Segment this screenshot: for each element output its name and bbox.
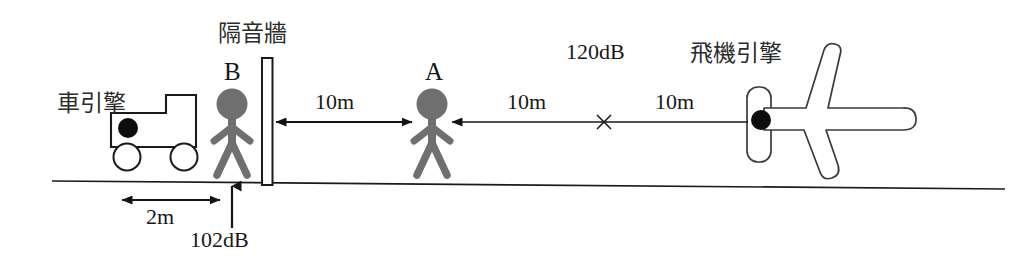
- plane-engine-label: 飛機引擎: [690, 42, 782, 65]
- diagram-canvas: 車引擎 隔音牆 B A 120dB 飛機引擎 10m 10m 10m 2m 10…: [0, 0, 1022, 265]
- person-b-figure: [214, 89, 250, 176]
- dimension-a-to-plane: [452, 115, 748, 129]
- ground-line: [52, 181, 1005, 189]
- distance-mid-to-plane-label: 10m: [655, 91, 694, 113]
- person-a-figure: [414, 89, 450, 176]
- plane-engine-dot: [751, 110, 771, 130]
- person-b-label: B: [224, 59, 241, 84]
- car-engine-label: 車引擎: [57, 92, 126, 115]
- distance-a-to-mid-label: 10m: [507, 91, 546, 113]
- person-a-label: A: [425, 59, 443, 84]
- sound-wall-figure: [262, 58, 273, 185]
- distance-car-to-b-label: 2m: [146, 206, 174, 228]
- sound-wall-label: 隔音牆: [218, 22, 287, 45]
- level-120db-label: 120dB: [566, 41, 625, 63]
- car-engine-dot: [118, 118, 138, 138]
- level-102db-label: 102dB: [190, 229, 249, 251]
- distance-wall-to-a-label: 10m: [315, 91, 354, 113]
